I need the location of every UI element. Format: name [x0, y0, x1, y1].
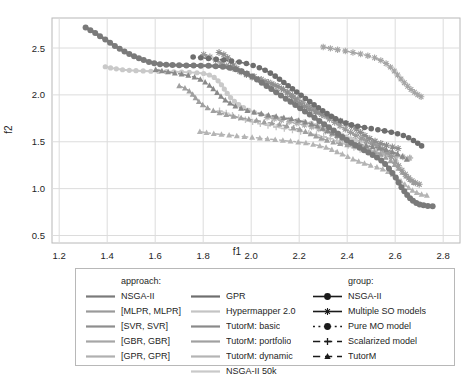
data-point — [220, 51, 227, 58]
legend-item[interactable]: NSGA-II 50k — [189, 364, 319, 379]
data-point — [338, 118, 344, 124]
data-point — [127, 68, 132, 73]
data-point — [151, 60, 157, 66]
legend-swatch-line — [189, 289, 222, 304]
data-point — [183, 62, 189, 68]
data-point — [324, 308, 331, 315]
data-point — [244, 61, 250, 67]
data-point — [362, 132, 369, 139]
data-point — [324, 338, 331, 345]
y-tick-label: 2.5 — [32, 43, 45, 54]
data-point — [141, 68, 146, 73]
data-point — [355, 123, 361, 129]
legend-item-label: [SVR, SVR] — [121, 319, 168, 334]
data-point — [206, 56, 212, 62]
legend-item-label: Scalarized model — [348, 334, 417, 349]
data-point — [262, 68, 268, 74]
data-point — [430, 203, 436, 209]
legend-column-approach-2: GPRHypermapper 2.0TutorM: basicTutorM: p… — [189, 274, 319, 379]
data-point — [103, 64, 108, 69]
data-point — [219, 82, 224, 87]
data-point — [416, 181, 423, 188]
legend-item[interactable]: GPR — [189, 289, 319, 304]
legend-item-label: [MLPR, MLPR] — [121, 304, 181, 319]
data-point — [375, 127, 381, 133]
data-point — [268, 70, 274, 76]
data-point — [148, 69, 153, 74]
legend-item-label: NSGA-II 50k — [226, 364, 277, 379]
legend-item-label: NSGA-II — [348, 289, 382, 304]
legend-swatch-circle — [311, 319, 344, 334]
legend-item-label: Multiple SO models — [348, 304, 426, 319]
legend-item-label: TutorM: basic — [226, 319, 280, 334]
legend-item[interactable]: TutorM: portfolio — [189, 334, 319, 349]
data-point — [169, 62, 175, 68]
data-point — [342, 126, 349, 133]
data-point — [320, 44, 326, 50]
data-point — [221, 57, 227, 63]
data-point — [205, 63, 211, 69]
data-point — [213, 56, 219, 62]
legend-swatch-line — [84, 334, 117, 349]
y-tick-label: 2.0 — [32, 89, 45, 100]
legend-item-label: GPR — [226, 289, 246, 304]
data-point — [342, 48, 348, 54]
data-point — [222, 86, 227, 91]
legend-swatch-line — [189, 364, 222, 379]
data-point — [357, 129, 364, 136]
plot-frame — [52, 18, 460, 243]
legend-item[interactable]: Multiple SO models — [311, 304, 456, 319]
legend-swatch-circle — [311, 289, 344, 304]
data-point — [333, 116, 339, 122]
data-point — [207, 72, 212, 77]
legend-swatch-star — [311, 304, 344, 319]
data-point — [382, 128, 388, 134]
legend-swatch-line — [84, 319, 117, 334]
legend-item-label: NSGA-II — [121, 289, 155, 304]
legend-swatch-line — [84, 304, 117, 319]
data-point — [401, 133, 407, 139]
data-point — [233, 66, 239, 72]
legend-swatch-triangle — [311, 349, 344, 364]
data-point — [190, 54, 196, 60]
legend-item-label: Hypermapper 2.0 — [226, 304, 296, 319]
legend-swatch-plus — [311, 334, 344, 349]
data-point — [227, 65, 233, 71]
data-point — [141, 57, 147, 63]
legend-column-group: group:NSGA-IIMultiple SO modelsPure MO m… — [311, 274, 456, 364]
legend-item[interactable]: TutorM: basic — [189, 319, 319, 334]
data-point — [418, 94, 424, 100]
y-tick-label: 1.5 — [32, 136, 45, 147]
legend-item[interactable]: TutorM — [311, 349, 456, 364]
data-point — [194, 70, 199, 75]
legend-item[interactable]: Scalarized model — [311, 334, 456, 349]
data-point — [201, 71, 206, 76]
data-point — [389, 129, 395, 135]
legend-item[interactable]: NSGA-II — [311, 289, 456, 304]
data-point — [225, 91, 230, 96]
data-point — [371, 55, 377, 61]
legend-item[interactable]: Hypermapper 2.0 — [189, 304, 319, 319]
data-point — [392, 158, 399, 165]
data-point — [357, 51, 363, 57]
data-point — [324, 323, 331, 330]
data-point — [324, 293, 331, 300]
data-point — [229, 58, 235, 64]
data-point — [419, 143, 425, 149]
legend-swatch-line — [84, 349, 117, 364]
legend-item[interactable]: TutorM: dynamic — [189, 349, 319, 364]
data-point — [232, 99, 237, 104]
legend-swatch-line — [189, 349, 222, 364]
data-point — [215, 78, 220, 83]
legend-item-label: [GPR, GPR] — [121, 349, 170, 364]
data-point — [146, 59, 152, 65]
legend-item[interactable]: Pure MO model — [311, 319, 456, 334]
legend-item-label: Pure MO model — [348, 319, 411, 334]
data-point — [133, 68, 138, 73]
data-point — [198, 63, 204, 69]
data-point — [250, 63, 256, 69]
legend: approach:NSGA-II[MLPR, MLPR][SVR, SVR][G… — [75, 268, 455, 366]
data-point — [220, 64, 226, 70]
data-point — [244, 71, 250, 77]
data-point — [97, 33, 103, 39]
